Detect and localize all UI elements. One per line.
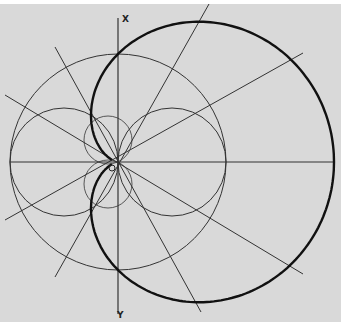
cardioid-diagram: X Y — [0, 0, 341, 322]
ray-neg27 — [5, 95, 303, 274]
y-axis-label: Y — [116, 310, 124, 320]
origin-marker — [109, 165, 115, 171]
x-axis-label: X — [122, 14, 129, 24]
ray-63 — [55, 4, 209, 277]
